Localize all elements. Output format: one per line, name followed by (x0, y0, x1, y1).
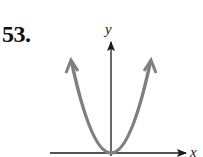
graph: y x (0, 0, 203, 157)
y-axis-label: y (103, 21, 112, 37)
x-axis-label: x (189, 144, 197, 157)
